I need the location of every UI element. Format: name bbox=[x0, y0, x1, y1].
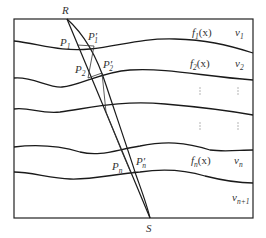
label-Pn: Pn bbox=[111, 160, 123, 175]
segment-mid bbox=[106, 112, 122, 152]
label-P2: P2 bbox=[74, 63, 86, 78]
interface-2 bbox=[14, 70, 253, 87]
label-f1: f1(x) bbox=[192, 26, 212, 41]
label-v2: v2 bbox=[235, 57, 244, 72]
interface-3 bbox=[14, 103, 253, 115]
interface-1 bbox=[14, 39, 253, 53]
label-vn: vn bbox=[234, 154, 243, 169]
label-fn: fn(x) bbox=[191, 154, 211, 169]
label-P2-prime: P′2 bbox=[102, 58, 113, 73]
interface-4 bbox=[14, 143, 253, 154]
label-f2: f2(x) bbox=[190, 57, 210, 72]
label-S: S bbox=[146, 222, 152, 234]
label-Pn-prime: P′n bbox=[135, 155, 146, 170]
model-frame bbox=[14, 19, 253, 218]
layered-media-ray-diagram: R S P1 P′1 P2 P′2 Pn P′n f1(x) f2(x) fn(… bbox=[0, 0, 266, 238]
label-R: R bbox=[61, 4, 69, 16]
segment-p1-p1prime bbox=[77, 45, 94, 46]
label-P1-prime: P′1 bbox=[87, 30, 98, 45]
label-vn1: vn+1 bbox=[232, 191, 249, 206]
label-v1: v1 bbox=[235, 26, 244, 41]
